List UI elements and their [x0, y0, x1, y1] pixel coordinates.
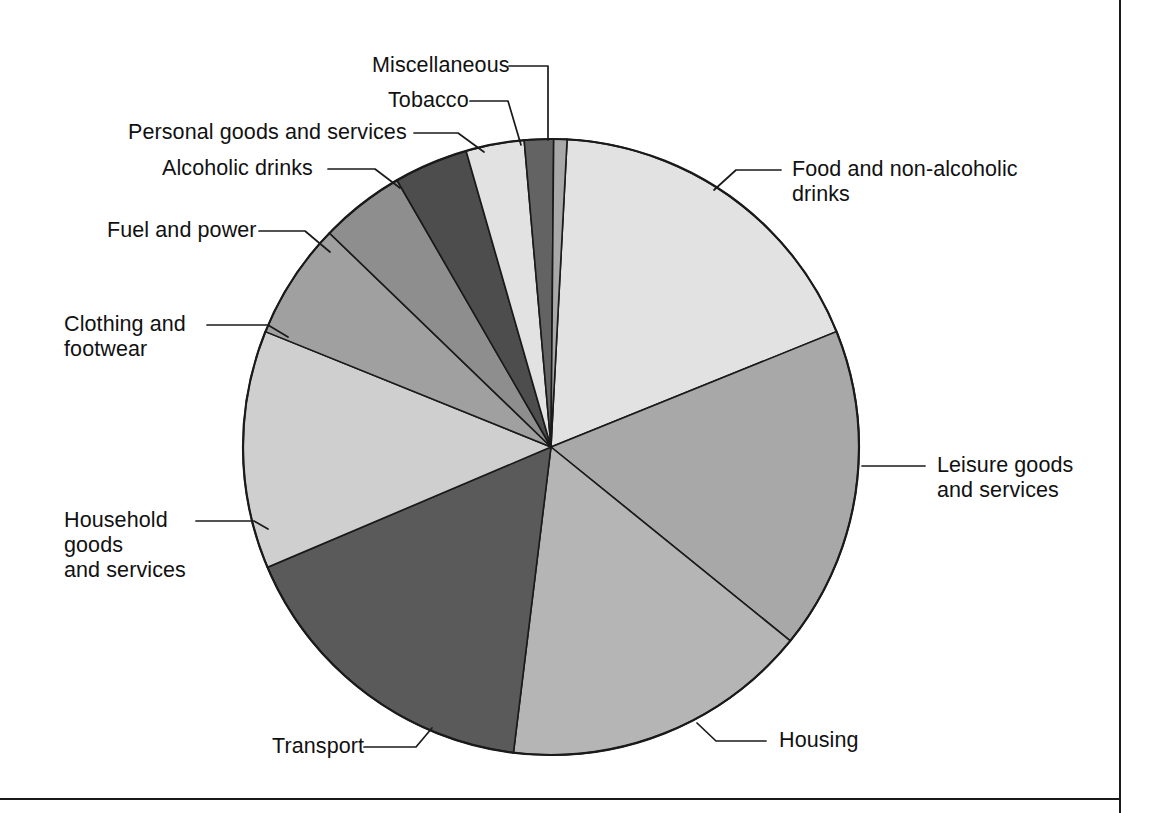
label-leisure-goods: Leisure goods and services — [937, 453, 1073, 503]
label-food-drinks: Food and non-alcoholic drinks — [792, 157, 1018, 207]
label-alcoholic-drinks: Alcoholic drinks — [162, 156, 313, 181]
pie-slices: Food and non-alcoholic drinks — 18%Leisu… — [243, 139, 859, 755]
leader-line-miscellaneous — [509, 66, 548, 140]
figure-canvas: Food and non-alcoholic drinks — 18%Leisu… — [0, 0, 1149, 813]
label-miscellaneous: Miscellaneous — [372, 53, 510, 78]
label-tobacco: Tobacco — [388, 88, 469, 113]
leader-line-tobacco — [470, 101, 521, 145]
leader-line-transport — [364, 728, 432, 747]
label-housing: Housing — [779, 728, 859, 753]
label-personal-goods: Personal goods and services — [128, 120, 407, 145]
label-household-goods: Household goods and services — [64, 508, 186, 583]
label-transport: Transport — [272, 734, 364, 759]
leader-line-housing — [697, 723, 766, 741]
label-clothing-and-footwear: Clothing and footwear — [64, 312, 186, 362]
label-fuel-and-power: Fuel and power — [107, 218, 257, 243]
leader-line-food-drinks — [714, 170, 781, 190]
